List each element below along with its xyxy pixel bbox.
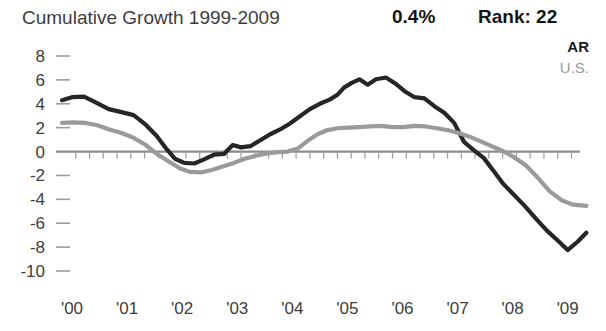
x-tick-label: '09 bbox=[557, 299, 579, 318]
y-tick-label: -6 bbox=[30, 214, 45, 233]
y-tick-label: -10 bbox=[20, 262, 45, 281]
x-tick-label: '02 bbox=[171, 299, 193, 318]
line-chart-svg: 86420-2-4-6-8-10 '00'01'02'03'04'05'06'0… bbox=[0, 0, 606, 331]
y-tick-label: -8 bbox=[30, 238, 45, 257]
x-axis: '00'01'02'03'04'05'06'07'08'09 bbox=[61, 299, 579, 318]
x-tick-label: '01 bbox=[116, 299, 138, 318]
y-tick-label: -4 bbox=[30, 190, 45, 209]
series-lines bbox=[62, 78, 586, 251]
y-tick-label: 0 bbox=[36, 143, 45, 162]
x-tick-label: '07 bbox=[446, 299, 468, 318]
y-tick-label: 8 bbox=[36, 47, 45, 66]
plot-area: 86420-2-4-6-8-10 '00'01'02'03'04'05'06'0… bbox=[0, 0, 606, 331]
x-tick-label: '00 bbox=[61, 299, 83, 318]
x-tick-label: '08 bbox=[502, 299, 524, 318]
y-tick-label: -2 bbox=[30, 166, 45, 185]
series-line-u-s bbox=[62, 122, 586, 206]
y-tick-label: 4 bbox=[36, 95, 45, 114]
x-tick-label: '04 bbox=[281, 299, 303, 318]
y-axis: 86420-2-4-6-8-10 bbox=[20, 47, 70, 281]
chart-card: Cumulative Growth 1999-2009 0.4% Rank: 2… bbox=[0, 0, 606, 331]
series-line-ar bbox=[62, 78, 586, 251]
x-tick-label: '05 bbox=[336, 299, 358, 318]
y-tick-label: 6 bbox=[36, 71, 45, 90]
x-tick-label: '03 bbox=[226, 299, 248, 318]
y-tick-label: 2 bbox=[36, 119, 45, 138]
x-tick-label: '06 bbox=[391, 299, 413, 318]
